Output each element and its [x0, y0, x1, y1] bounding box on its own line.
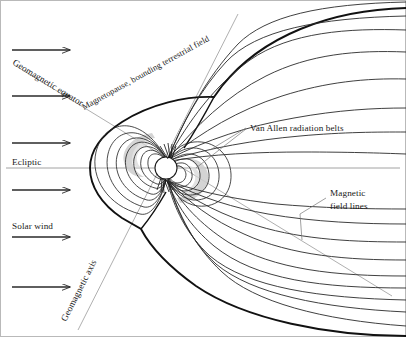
label-ecliptic: Ecliptic	[12, 157, 41, 167]
label-magnetic-field-lines-line1: Magnetic	[330, 188, 366, 198]
diagram-canvas: Geomagnetic equator Magnetopause, boundi…	[0, 0, 406, 337]
label-magnetic-field-lines-line2: field lines	[330, 201, 368, 211]
earth-sphere	[155, 157, 177, 179]
label-solar-wind: Solar wind	[12, 221, 53, 231]
callout-leader-lines	[196, 128, 326, 240]
label-geomagnetic-axis: Geomagnetic axis	[59, 258, 99, 323]
magnetosphere-diagram: Geomagnetic equator Magnetopause, boundi…	[0, 0, 406, 337]
label-geomagnetic-equator: Geomagnetic equator	[11, 57, 85, 108]
open-field-lines-south	[167, 180, 406, 326]
label-magnetopause: Magnetopause, bounding terrestrial field	[80, 33, 211, 112]
label-van-allen-radiation-belts: Van Allen radiation belts	[250, 123, 344, 133]
open-field-lines-north	[169, 2, 406, 161]
